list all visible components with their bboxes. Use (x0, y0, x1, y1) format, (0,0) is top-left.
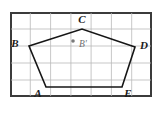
interior-point-dot (71, 39, 75, 43)
figure-canvas: A B C D E B' (0, 0, 160, 115)
interior-point-label: B' (79, 39, 88, 49)
vertex-label-a: A (33, 87, 41, 99)
vertex-label-b: B (10, 37, 18, 49)
vertex-label-d: D (139, 39, 148, 51)
geometry-figure: A B C D E B' (0, 0, 160, 115)
vertex-label-c: C (78, 13, 86, 25)
vertex-label-e: E (123, 87, 131, 99)
